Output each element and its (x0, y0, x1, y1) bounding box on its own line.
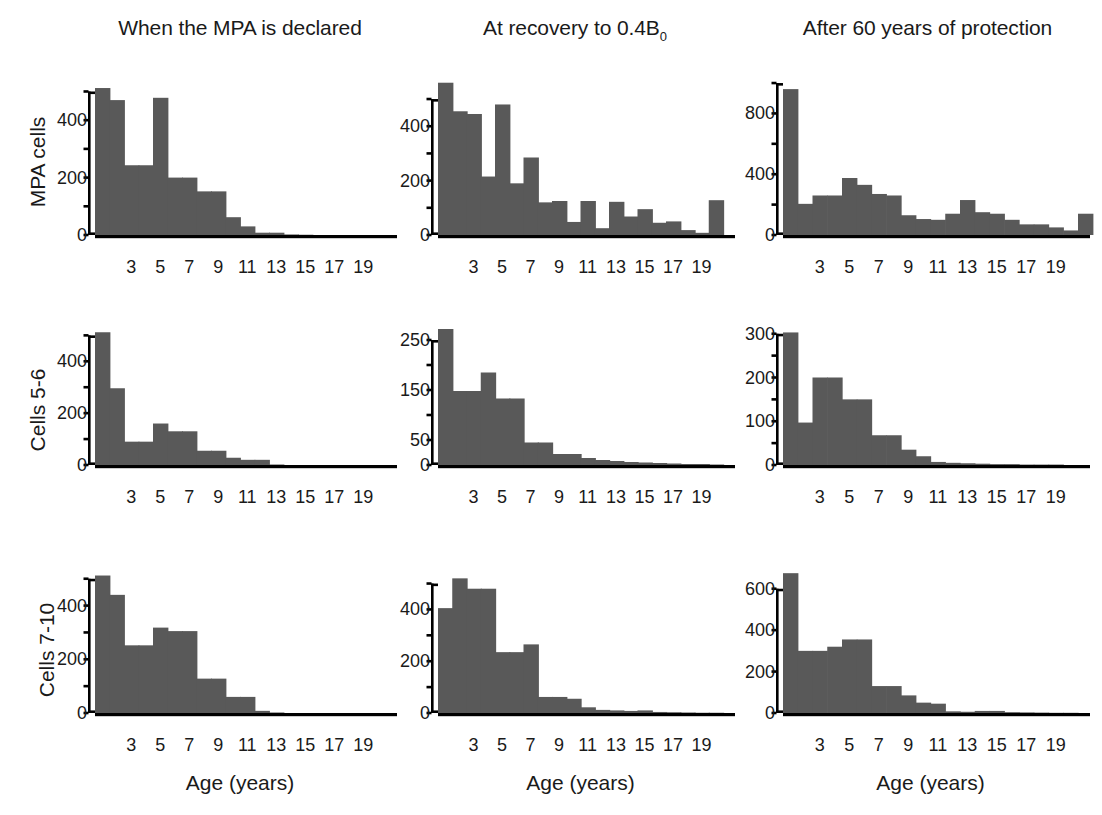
x-tick-label: 9 (903, 257, 913, 278)
y-tick (427, 686, 432, 689)
y-tick-label: 0 (713, 455, 775, 476)
y-tick (427, 634, 432, 637)
bar (226, 697, 241, 713)
panel-cells-7-10-recovery: 020040035791113151719Age (years) (0, 0, 1102, 815)
bar (827, 378, 842, 466)
bar (452, 578, 467, 713)
x-tick-label: 9 (213, 735, 223, 756)
plot-area-cells-5-6-declared (81, 317, 401, 471)
y-tick (427, 582, 432, 585)
bar (827, 647, 842, 713)
x-tick-label: 13 (957, 257, 977, 278)
y-tick (84, 658, 89, 661)
y-tick (772, 670, 777, 673)
x-tick-label: 3 (469, 257, 479, 278)
y-tick (772, 420, 777, 423)
x-axis-line (95, 465, 397, 468)
bar (827, 195, 842, 235)
x-tick-label: 15 (295, 257, 315, 278)
bars-cells-7-10-recovery (438, 578, 724, 713)
bar (609, 202, 624, 235)
x-tick-label: 11 (578, 735, 597, 756)
bar (813, 378, 828, 466)
y-tick-label: 400 (368, 599, 430, 620)
x-tick-label: 13 (606, 735, 626, 756)
x-tick-label: 5 (844, 735, 854, 756)
x-tick-label: 17 (663, 735, 683, 756)
y-tick-label: 200 (368, 170, 430, 191)
y-axis-line (776, 589, 779, 713)
x-tick-label: 13 (266, 257, 286, 278)
bar (666, 712, 681, 713)
y-tick (772, 629, 777, 632)
bar (452, 391, 467, 465)
bar (990, 214, 1005, 235)
y-tick (427, 414, 432, 417)
y-tick-label: 400 (713, 620, 775, 641)
x-tick-label: 11 (578, 487, 597, 508)
bar (110, 388, 125, 465)
bar (931, 220, 946, 235)
y-tick (84, 712, 89, 715)
x-axis-line (783, 235, 1090, 238)
column-title-recovery: At recovery to 0.4B0 (420, 16, 730, 40)
x-tick-label: 11 (929, 257, 948, 278)
bar (240, 697, 255, 713)
y-tick (772, 332, 777, 335)
x-tick-label: 11 (238, 257, 257, 278)
x-tick-label: 15 (295, 487, 315, 508)
bar (438, 608, 453, 713)
x-tick-label: 9 (903, 487, 913, 508)
x-tick-label: 17 (1016, 257, 1036, 278)
y-tick (427, 389, 432, 392)
bar (467, 589, 482, 713)
bar (798, 651, 813, 713)
panel-mpa-cells-recovery: 020040035791113151719 (0, 0, 1102, 815)
bars-cells-5-6-recovery (438, 329, 724, 465)
x-tick-label: 15 (295, 735, 315, 756)
x-tick-label: 7 (874, 735, 884, 756)
x-tick-label: 19 (353, 257, 373, 278)
bar (783, 573, 798, 713)
y-axis-line (88, 335, 91, 465)
bar (945, 214, 960, 235)
bar (652, 223, 667, 235)
x-tick-label: 9 (554, 487, 564, 508)
y-axis-cap (776, 589, 783, 592)
bar (638, 710, 653, 713)
y-tick (772, 203, 777, 206)
bar (566, 699, 581, 713)
y-tick (427, 439, 432, 442)
bar (581, 707, 596, 713)
y-tick (772, 712, 777, 715)
bar (798, 423, 813, 465)
x-tick-label: 15 (987, 487, 1007, 508)
row-label-cells-5-6: Cells 5-6 (26, 340, 50, 480)
bar (886, 435, 901, 465)
x-axis-line (783, 713, 1090, 716)
bar (139, 165, 154, 235)
bars-mpa-cells-declared (95, 88, 313, 235)
y-tick (427, 152, 432, 155)
bar (481, 373, 496, 466)
bar (124, 165, 139, 235)
x-tick-label: 13 (957, 735, 977, 756)
bar (197, 679, 212, 713)
x-tick-label: 17 (1016, 735, 1036, 756)
bar (139, 442, 154, 465)
bar (110, 595, 125, 713)
bar (509, 399, 524, 466)
bars-mpa-cells-sixtyyear (783, 89, 1093, 235)
y-tick (84, 464, 89, 467)
y-tick-label: 0 (368, 225, 430, 246)
bar (595, 710, 610, 713)
y-tick (84, 604, 89, 607)
bar (872, 686, 887, 713)
bar (975, 212, 990, 235)
bar (182, 431, 197, 465)
x-tick-label: 3 (815, 257, 825, 278)
y-axis-cap (431, 462, 438, 465)
y-tick (84, 90, 89, 93)
bar (857, 185, 872, 235)
x-tick-label: 5 (155, 735, 165, 756)
